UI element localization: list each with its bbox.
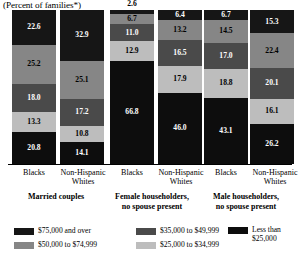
bar-segment: 20.1 bbox=[250, 68, 294, 99]
legend-item[interactable]: $50,000 to $74,999 bbox=[14, 241, 97, 250]
bar-segment: 13.3 bbox=[12, 112, 56, 132]
stacked-bar-chart: (Percent of families*) 22.625.218.013.32… bbox=[0, 0, 300, 269]
bar-segment: 18.0 bbox=[12, 84, 56, 112]
bar-segment: 17.2 bbox=[60, 99, 104, 125]
segment-value-label: 66.8 bbox=[125, 108, 138, 116]
bar-segment: 22.6 bbox=[12, 10, 56, 45]
bar-1: 22.625.218.013.320.8 bbox=[12, 10, 56, 164]
segment-value-label-external: 2.6 bbox=[110, 0, 154, 8]
bar-segment: 26.2 bbox=[250, 124, 294, 164]
bar-segment: 14.1 bbox=[60, 142, 104, 164]
bar-segment: 20.8 bbox=[12, 132, 56, 164]
legend-label: $50,000 to $74,999 bbox=[38, 241, 97, 250]
legend-item[interactable]: $35,000 to $49,999 bbox=[136, 227, 219, 236]
bar-segment: 6.4 bbox=[158, 10, 202, 20]
group-label: Married couples bbox=[6, 192, 106, 202]
bar-segment: 25.1 bbox=[60, 61, 104, 100]
segment-value-label: 26.2 bbox=[265, 140, 278, 148]
chart-legend: $75,000 and over$50,000 to $74,999$35,00… bbox=[0, 225, 300, 265]
segment-value-label: 14.1 bbox=[75, 149, 88, 157]
bar-segment: 10.8 bbox=[60, 126, 104, 143]
legend-label: $75,000 and over bbox=[38, 227, 91, 236]
segment-value-label: 11.0 bbox=[126, 29, 139, 37]
legend-swatch bbox=[228, 227, 248, 234]
bar-segment: 18.8 bbox=[204, 69, 248, 98]
bar-stack: 2.66.711.012.966.8 bbox=[110, 10, 154, 164]
legend-swatch bbox=[136, 228, 156, 235]
bar-segment: 17.9 bbox=[158, 66, 202, 94]
bar-stack: 6.714.517.018.843.1 bbox=[204, 10, 248, 164]
segment-value-label: 12.9 bbox=[125, 47, 138, 55]
bar-segment: 16.5 bbox=[158, 40, 202, 65]
bar-segment: 17.0 bbox=[204, 43, 248, 69]
segment-value-label: 18.0 bbox=[27, 94, 40, 102]
category-label: Non-Hispanic Whites bbox=[242, 168, 300, 187]
plot-area: 22.625.218.013.320.832.925.117.210.814.1… bbox=[0, 10, 300, 164]
bar-segment: 22.4 bbox=[250, 33, 294, 67]
legend-label: Less than $25,000 bbox=[252, 226, 281, 243]
segment-value-label: 20.1 bbox=[265, 79, 278, 87]
segment-value-label: 22.4 bbox=[265, 47, 278, 55]
legend-swatch bbox=[14, 228, 34, 235]
category-axis: BlacksNon-Hispanic WhitesBlacksNon-Hispa… bbox=[0, 166, 300, 212]
bar-segment: 25.2 bbox=[12, 45, 56, 84]
segment-value-label: 22.6 bbox=[27, 23, 40, 31]
bar-segment: 11.0 bbox=[110, 24, 154, 41]
bar-segment: 6.7 bbox=[110, 14, 154, 24]
segment-value-label: 25.1 bbox=[75, 76, 88, 84]
segment-value-label: 10.8 bbox=[75, 130, 88, 138]
bar-segment: 16.1 bbox=[250, 99, 294, 124]
segment-value-label: 13.3 bbox=[27, 118, 40, 126]
segment-value-label: 18.8 bbox=[219, 79, 232, 87]
segment-value-label: 6.7 bbox=[221, 11, 231, 19]
legend-item[interactable]: Less than $25,000 bbox=[228, 226, 281, 243]
segment-value-label: 32.9 bbox=[75, 31, 88, 39]
segment-value-label: 16.1 bbox=[265, 107, 278, 115]
bar-segment: 15.3 bbox=[250, 10, 294, 34]
segment-value-label: 17.2 bbox=[75, 108, 88, 116]
group-label: Female householders, no spouse present bbox=[102, 192, 202, 211]
axis-baseline bbox=[8, 164, 292, 165]
segment-value-label: 17.9 bbox=[173, 75, 186, 83]
segment-value-label: 46.0 bbox=[173, 124, 186, 132]
legend-item[interactable]: $75,000 and over bbox=[14, 227, 91, 236]
bar-segment: 46.0 bbox=[158, 93, 202, 164]
bar-stack: 6.413.216.517.946.0 bbox=[158, 10, 202, 164]
segment-value-label: 15.3 bbox=[265, 18, 278, 26]
bar-segment: 32.9 bbox=[60, 10, 104, 61]
bar-stack: 22.625.218.013.320.8 bbox=[12, 10, 56, 164]
segment-value-label: 20.8 bbox=[27, 144, 40, 152]
bar-3: 2.66.711.012.966.8 bbox=[110, 10, 154, 164]
bar-stack: 32.925.117.210.814.1 bbox=[60, 10, 104, 164]
bar-4: 6.413.216.517.946.0 bbox=[158, 10, 202, 164]
bar-stack: 15.322.420.116.126.2 bbox=[250, 10, 294, 164]
bar-segment: 12.9 bbox=[110, 41, 154, 61]
bar-segment: 43.1 bbox=[204, 98, 248, 164]
bar-segment: 13.2 bbox=[158, 20, 202, 40]
legend-label: $35,000 to $49,999 bbox=[160, 227, 219, 236]
bar-5: 6.714.517.018.843.1 bbox=[204, 10, 248, 164]
segment-value-label: 16.5 bbox=[173, 49, 186, 57]
legend-swatch bbox=[14, 242, 34, 249]
segment-value-label: 43.1 bbox=[219, 127, 232, 135]
segment-value-label: 6.4 bbox=[175, 11, 185, 19]
chart-title: (Percent of families*) bbox=[3, 0, 81, 10]
legend-item[interactable]: $25,000 to $34,999 bbox=[136, 241, 219, 250]
legend-swatch bbox=[136, 242, 156, 249]
bar-2: 32.925.117.210.814.1 bbox=[60, 10, 104, 164]
bar-segment: 14.5 bbox=[204, 20, 248, 42]
bar-segment: 66.8 bbox=[110, 61, 154, 164]
bar-segment: 6.7 bbox=[204, 10, 248, 20]
group-label: Male householders, no spouse present bbox=[196, 192, 296, 211]
segment-value-label: 13.2 bbox=[173, 26, 186, 34]
segment-value-label: 17.0 bbox=[219, 52, 232, 60]
segment-value-label: 25.2 bbox=[27, 60, 40, 68]
segment-value-label: 14.5 bbox=[219, 27, 232, 35]
bar-6: 15.322.420.116.126.2 bbox=[250, 10, 294, 164]
segment-value-label: 6.7 bbox=[127, 15, 137, 23]
legend-label: $25,000 to $34,999 bbox=[160, 241, 219, 250]
